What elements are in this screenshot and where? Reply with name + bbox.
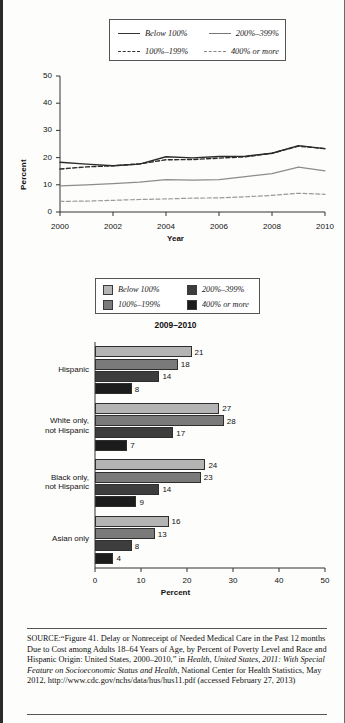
figure-page: Below 100% 200%–399% 100%–199% 400% or m… [0, 0, 345, 723]
x-tick-label: 0 [75, 576, 115, 585]
line-chart-legend: Below 100% 200%–399% 100%–199% 400% or m… [109, 19, 286, 61]
bar-value-label: 9 [139, 498, 143, 507]
bar [95, 383, 132, 394]
line-chart-figure: Below 100% 200%–399% 100%–199% 400% or m… [3, 0, 345, 252]
bar-legend-item-100-199: 100%–199% [103, 300, 187, 310]
legend-label: 200%–399% [236, 29, 279, 38]
legend-item-100-199: 100%–199% [118, 47, 204, 56]
legend-item-400-or-more: 400% or more [204, 47, 279, 56]
bar-value-label: 28 [227, 417, 236, 426]
legend-label: 400% or more [202, 300, 249, 309]
x-tick-label: 40 [259, 576, 299, 585]
x-tick-label: 10 [121, 576, 161, 585]
bar-value-label: 23 [204, 473, 213, 482]
bar [95, 371, 159, 382]
dashed-dark-line-icon [118, 51, 140, 52]
bar [95, 496, 136, 507]
color-swatch-icon [103, 300, 113, 310]
bar-value-label: 27 [222, 404, 231, 413]
line-series-200-399- [60, 167, 325, 186]
x-tick-label: 2008 [252, 222, 292, 231]
bar-category-label: Hispanic [3, 365, 89, 375]
bar-chart-title: 2009–2010 [3, 320, 345, 330]
source-prefix: SOURCE: [27, 634, 61, 643]
bar-value-label: 8 [135, 385, 139, 394]
bar-value-label: 14 [162, 372, 171, 381]
bar [95, 359, 178, 370]
legend-label: Below 100% [145, 29, 188, 38]
bar [95, 540, 132, 551]
bar [95, 346, 192, 357]
bar [95, 472, 201, 483]
x-tick-label: 2002 [93, 222, 133, 231]
color-swatch-icon [103, 285, 113, 295]
line-series-400-or-more [60, 193, 325, 201]
bar-chart-x-axis-title: Percent [3, 588, 345, 597]
x-tick-label: 2010 [305, 222, 345, 231]
bar [95, 528, 155, 539]
bar-value-label: 17 [176, 429, 185, 438]
bar [95, 440, 127, 451]
color-swatch-icon [187, 285, 197, 295]
dashed-light-line-icon [204, 51, 226, 52]
bar [95, 516, 169, 527]
x-tick-label: 50 [305, 576, 345, 585]
bar-value-label: 21 [195, 348, 204, 357]
x-tick-label: 2000 [40, 222, 80, 231]
bar-value-label: 8 [135, 542, 139, 551]
source-note: SOURCE:“Figure 41. Delay or Nonreceipt o… [27, 634, 329, 687]
legend-label: 400% or more [231, 47, 279, 56]
bar-category-label: Black only,not Hispanic [3, 473, 89, 492]
legend-item-200-399: 200%–399% [209, 29, 279, 38]
bar-value-label: 13 [158, 530, 167, 539]
bar [95, 553, 113, 564]
bar-value-label: 7 [130, 441, 134, 450]
bar-value-label: 14 [162, 485, 171, 494]
bar-value-label: 24 [208, 461, 217, 470]
bar-chart-figure: Below 100% 200%–399% 100%–199% 400% or m… [3, 258, 345, 624]
line-series-below-100- [60, 146, 325, 166]
bar-category-label: Asian only [3, 534, 89, 544]
bar [95, 484, 159, 495]
x-tick-label: 2004 [146, 222, 186, 231]
solid-dark-line-icon [118, 33, 140, 34]
bar [95, 415, 224, 426]
legend-label: Below 100% [118, 285, 160, 294]
bar-category-label: White only,not Hispanic [3, 416, 89, 435]
x-tick-label: 30 [213, 576, 253, 585]
line-chart-x-axis-title: Year [3, 234, 345, 243]
bar [95, 459, 205, 470]
bar-value-label: 4 [116, 554, 120, 563]
color-swatch-icon [187, 300, 197, 310]
x-tick-label: 20 [167, 576, 207, 585]
legend-label: 200%–399% [202, 285, 244, 294]
legend-item-below-100: Below 100% [118, 29, 209, 38]
x-tick-label: 2006 [199, 222, 239, 231]
solid-light-line-icon [209, 33, 231, 34]
bar-chart-legend: Below 100% 200%–399% 100%–199% 400% or m… [95, 278, 260, 314]
bar-legend-item-below-100: Below 100% [103, 285, 187, 295]
line-chart-plot-area: Percent 01020304050 20002002200420062008… [3, 70, 345, 252]
bar-chart-plot-area: HispanicWhite only,not HispanicBlack onl… [3, 336, 345, 624]
bar-value-label: 18 [181, 360, 190, 369]
bar [95, 427, 173, 438]
source-divider [27, 628, 327, 629]
legend-label: 100%–199% [118, 300, 160, 309]
bar-value-label: 16 [172, 517, 181, 526]
bar-legend-item-200-399: 200%–399% [187, 285, 244, 295]
bottom-divider [27, 714, 327, 715]
bar [95, 403, 219, 414]
legend-label: 100%–199% [145, 47, 188, 56]
bar-legend-item-400-or-more: 400% or more [187, 300, 249, 310]
